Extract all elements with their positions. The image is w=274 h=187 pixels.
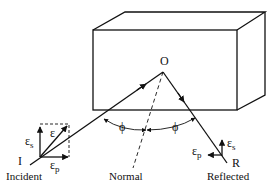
reflected-s-label: εs: [227, 136, 236, 152]
incident-s-label: εs: [25, 134, 34, 150]
reflection-diagram: ϕ ϕ O εs ε εp I Incident Normal εs εp R …: [0, 0, 274, 187]
angle-incident-label: ϕ: [119, 120, 125, 134]
field-vector-label: ε: [50, 126, 55, 140]
reflected-caption: Reflected: [207, 170, 250, 182]
incident-p-label: εp: [50, 158, 60, 174]
origin-label: O: [160, 54, 169, 68]
incident-caption: Incident: [6, 170, 42, 182]
incident-ray-arrow-icon: [137, 84, 146, 90]
block-top-face: [93, 12, 265, 30]
reflected-p-label: εp: [192, 144, 202, 160]
incident-point-label: I: [18, 154, 22, 168]
normal-caption: Normal: [109, 170, 143, 182]
angle-reflected-label: ϕ: [172, 120, 178, 134]
reflected-point-label: R: [232, 156, 240, 170]
reflected-ray-arrow-icon: [178, 93, 184, 102]
reflected-angle-arc: [147, 118, 195, 130]
block-front-face: [93, 30, 237, 110]
normal-line: [133, 72, 163, 168]
